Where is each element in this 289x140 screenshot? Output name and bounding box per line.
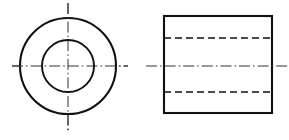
side-view-group: [146, 16, 289, 113]
technical-drawing-canvas: [0, 0, 289, 140]
side-view-rectangle: [164, 16, 272, 113]
front-view-group: [12, 3, 128, 131]
drawing-svg: [0, 0, 289, 140]
